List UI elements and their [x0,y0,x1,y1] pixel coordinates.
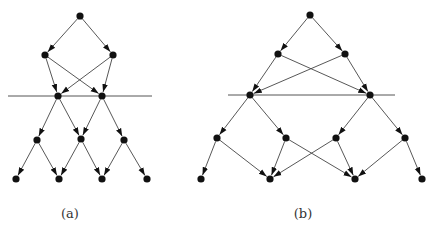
edge-arrow [281,18,308,51]
graph-node [351,175,358,182]
edge-arrow [83,142,100,175]
graph-node [306,11,313,18]
edge-arrow [406,141,420,175]
graph-node [332,134,339,141]
graph-node [120,136,127,143]
panel-a: (a) [8,12,152,221]
edge-arrow [82,19,110,52]
graph-node [266,175,273,182]
graph-node [33,136,40,143]
graph-node [246,91,253,98]
edges [18,19,145,176]
graph-node [401,134,408,141]
graph-node [341,50,348,57]
edge-arrow [61,57,110,93]
edge-arrow [254,55,342,93]
dag-figure: (a) (b) [0,0,437,233]
graph-node [98,92,105,99]
graph-node [76,12,83,19]
graph-node [418,175,425,182]
graph-node [143,175,150,182]
edge-arrow [202,141,215,175]
graph-node [282,134,289,141]
graph-node [109,51,116,58]
graph-node [77,135,84,142]
graph-node [366,91,373,98]
edge-arrow [252,57,276,92]
caption-b: (b) [294,206,312,221]
edge-arrow [18,143,35,175]
edge-arrow [358,140,402,176]
edge-arrow [48,19,78,52]
graph-node [213,134,220,141]
graph-node [98,175,105,182]
edges [202,18,420,177]
edge-arrow [103,58,112,92]
graph-node [41,51,48,58]
edge-arrow [60,99,79,135]
graph-node [197,175,204,182]
graph-node [274,50,281,57]
edge-arrow [312,18,342,51]
graph-node [55,175,62,182]
edge-arrow [126,143,145,175]
edge-arrow [83,99,101,135]
edge-arrow [339,98,368,135]
edge-arrow [271,141,284,175]
edge-arrow [220,140,267,176]
edge-arrow [39,99,57,136]
nodes [12,12,150,182]
edge-arrow [104,143,122,175]
edge-arrow [372,98,402,135]
edge-arrow [273,140,332,177]
nodes [197,11,425,182]
graph-node [54,92,61,99]
edge-arrow [39,143,57,175]
edge-arrow [252,98,283,135]
edge-arrow [104,99,123,136]
panel-b: (b) [197,11,425,221]
caption-a: (a) [61,206,79,221]
edge-arrow [46,58,57,92]
edge-arrow [289,140,351,177]
edge-arrow [219,98,247,135]
edge-arrow [61,142,79,175]
edge-arrow [281,55,366,93]
graph-node [12,175,19,182]
